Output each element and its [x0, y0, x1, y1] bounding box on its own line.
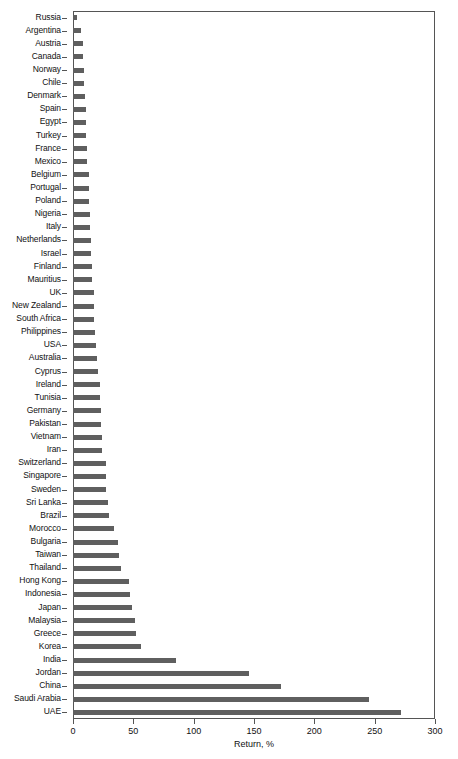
table-row [73, 697, 435, 702]
category-tick [62, 345, 67, 346]
bar [73, 540, 118, 545]
category-label: Brazil [40, 511, 61, 520]
category-tick [62, 136, 67, 137]
value-tick [73, 719, 74, 724]
category-label: New Zealand [12, 301, 61, 310]
category-tick [62, 149, 67, 150]
x-axis-title: Return, % [73, 739, 435, 750]
bar [73, 684, 281, 689]
table-row [73, 28, 435, 33]
bar [73, 317, 94, 322]
bar [73, 553, 119, 558]
category-label: UAE [44, 707, 61, 716]
bar [73, 579, 129, 584]
table-row [73, 356, 435, 361]
category-tick [62, 44, 67, 45]
bar [73, 618, 135, 623]
category-label: Taiwan [35, 550, 61, 559]
bar [73, 15, 77, 20]
bar [73, 448, 102, 453]
value-tick-label: 200 [307, 726, 322, 736]
table-row [73, 644, 435, 649]
category-tick [62, 358, 67, 359]
category-label: Thailand [29, 563, 61, 572]
category-label: Mexico [35, 157, 61, 166]
category-label: Finland [34, 262, 61, 271]
category-tick [62, 594, 67, 595]
category-label: Morocco [29, 524, 61, 533]
value-tick [194, 719, 195, 724]
category-tick [62, 188, 67, 189]
return-by-country-bar-chart: RussiaArgentinaAustriaCanadaNorwayChileD… [0, 0, 458, 759]
category-tick [62, 555, 67, 556]
category-tick [62, 424, 67, 425]
category-label: Chile [42, 78, 61, 87]
table-row [73, 658, 435, 663]
category-tick [62, 83, 67, 84]
table-row [73, 540, 435, 545]
category-label: Austria [35, 39, 61, 48]
table-row [73, 513, 435, 518]
category-tick [62, 712, 67, 713]
value-tick-label: 50 [128, 726, 138, 736]
value-tick [435, 719, 436, 724]
bar [73, 28, 81, 33]
bars-layer [73, 11, 435, 719]
value-tick-label: 100 [186, 726, 201, 736]
table-row [73, 120, 435, 125]
bar [73, 54, 83, 59]
category-tick [62, 18, 67, 19]
category-tick [62, 568, 67, 569]
category-tick [62, 31, 67, 32]
table-row [73, 592, 435, 597]
category-label: Hong Kong [19, 576, 61, 585]
table-row [73, 710, 435, 715]
category-tick [62, 372, 67, 373]
category-label: Germany [27, 406, 61, 415]
bar [73, 422, 101, 427]
bar [73, 644, 141, 649]
category-tick [62, 306, 67, 307]
table-row [73, 251, 435, 256]
table-row [73, 631, 435, 636]
category-tick [62, 542, 67, 543]
bar [73, 435, 102, 440]
category-label: Sri Lanka [26, 498, 61, 507]
category-tick [62, 490, 67, 491]
category-tick [62, 634, 67, 635]
category-tick [62, 267, 67, 268]
bar [73, 94, 85, 99]
bar [73, 41, 83, 46]
category-label: Israel [41, 249, 61, 258]
table-row [73, 290, 435, 295]
category-label: France [35, 144, 61, 153]
category-tick [62, 699, 67, 700]
category-tick [62, 385, 67, 386]
table-row [73, 671, 435, 676]
bar [73, 369, 98, 374]
category-label: Saudi Arabia [14, 694, 61, 703]
category-axis: RussiaArgentinaAustriaCanadaNorwayChileD… [0, 11, 67, 719]
category-label: Australia [29, 353, 61, 362]
bar [73, 146, 87, 151]
category-tick [62, 516, 67, 517]
category-label: Canada [32, 52, 61, 61]
bar [73, 697, 369, 702]
table-row [73, 238, 435, 243]
bar [73, 671, 249, 676]
category-label: Ireland [36, 380, 61, 389]
bar [73, 605, 132, 610]
bar [73, 212, 90, 217]
table-row [73, 212, 435, 217]
category-tick [62, 463, 67, 464]
table-row [73, 94, 435, 99]
bar [73, 710, 401, 715]
category-label: Philippines [21, 327, 61, 336]
bar [73, 566, 121, 571]
table-row [73, 304, 435, 309]
table-row [73, 133, 435, 138]
category-label: Tunisia [35, 393, 61, 402]
bar [73, 474, 106, 479]
category-tick [62, 686, 67, 687]
bar [73, 658, 176, 663]
